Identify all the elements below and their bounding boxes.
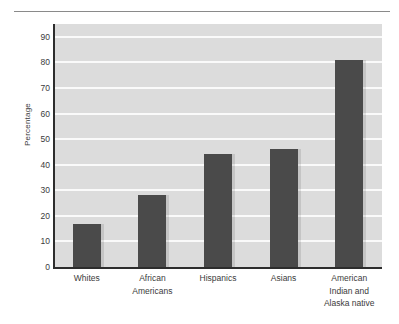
y-axis-tick-label: 30 [4,186,50,195]
y-axis-tick-label: 80 [4,58,50,67]
plot-area [54,24,382,267]
bar [73,224,101,267]
bar [204,154,232,267]
x-axis-tick-label: Hispanics [185,272,251,285]
x-axis-line [53,267,382,269]
gridline [54,138,382,140]
y-axis-tick-labels: 0102030405060708090 [0,0,50,324]
y-axis-tick-label: 40 [4,161,50,170]
y-axis-tick-label: 10 [4,237,50,246]
gridline [54,113,382,115]
bar [335,60,363,267]
y-axis-tick-label: 90 [4,33,50,42]
y-axis-tick-label: 50 [4,135,50,144]
bar-chart-figure: Percentage 0102030405060708090 WhitesAfr… [0,0,399,324]
gridline [54,61,382,63]
y-axis-tick-label: 70 [4,84,50,93]
x-axis-tick-label: Asians [251,272,317,285]
y-axis-tick-label: 0 [4,263,50,272]
x-axis-tick-label: African Americans [120,272,186,297]
x-axis-tick-label: Whites [54,272,120,285]
bar [138,195,166,267]
gridline [54,36,382,38]
bar [270,149,298,267]
top-horizontal-rule [14,11,390,12]
y-axis-line [53,24,55,267]
y-axis-tick-label: 60 [4,110,50,119]
gridline [54,87,382,89]
x-axis-tick-label: American Indian and Alaska native [316,272,382,310]
y-axis-tick-label: 20 [4,212,50,221]
